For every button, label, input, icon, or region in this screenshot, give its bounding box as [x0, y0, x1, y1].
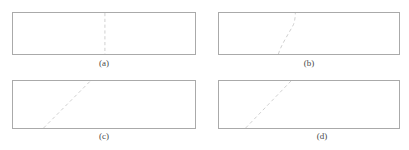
panel-b-curve-svg	[219, 13, 399, 54]
interface-curve-d	[246, 81, 291, 128]
panel-label-a: (a)	[72, 58, 136, 68]
panel-d	[218, 80, 400, 129]
panel-label-b: (b)	[277, 58, 341, 68]
interface-curve-c	[44, 81, 91, 128]
interface-curve-b	[278, 13, 295, 54]
panel-a	[12, 12, 196, 55]
panel-b	[218, 12, 400, 55]
panel-c	[12, 80, 196, 129]
panel-a-curve-svg	[13, 13, 195, 54]
figure-panel-grid: (a) (b) (c) (d)	[0, 0, 409, 150]
panel-c-curve-svg	[13, 81, 195, 128]
panel-label-d: (d)	[290, 131, 354, 141]
panel-label-c: (c)	[72, 131, 136, 141]
panel-d-curve-svg	[219, 81, 399, 128]
